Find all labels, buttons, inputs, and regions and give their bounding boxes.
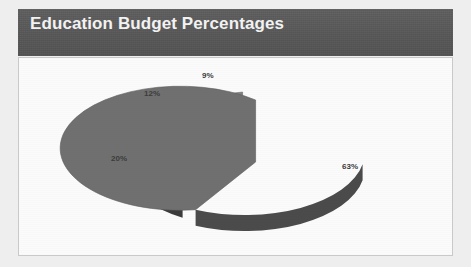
- data-label-facilities: 20%: [111, 154, 127, 164]
- pie-chart-3d: [19, 58, 452, 255]
- page-title: Education Budget Percentages: [30, 13, 284, 35]
- data-label-salaries: 63%: [342, 162, 358, 172]
- chart-plot-area: 63% 20% 12% 9% Salaries Facilities Equip…: [18, 57, 453, 256]
- data-label-administration: 9%: [202, 71, 214, 81]
- slide-canvas: Education Budget Percentages 63% 20% 12%…: [0, 0, 471, 267]
- pie-slice-salaries: [60, 86, 255, 210]
- data-label-equipment: 12%: [144, 89, 160, 99]
